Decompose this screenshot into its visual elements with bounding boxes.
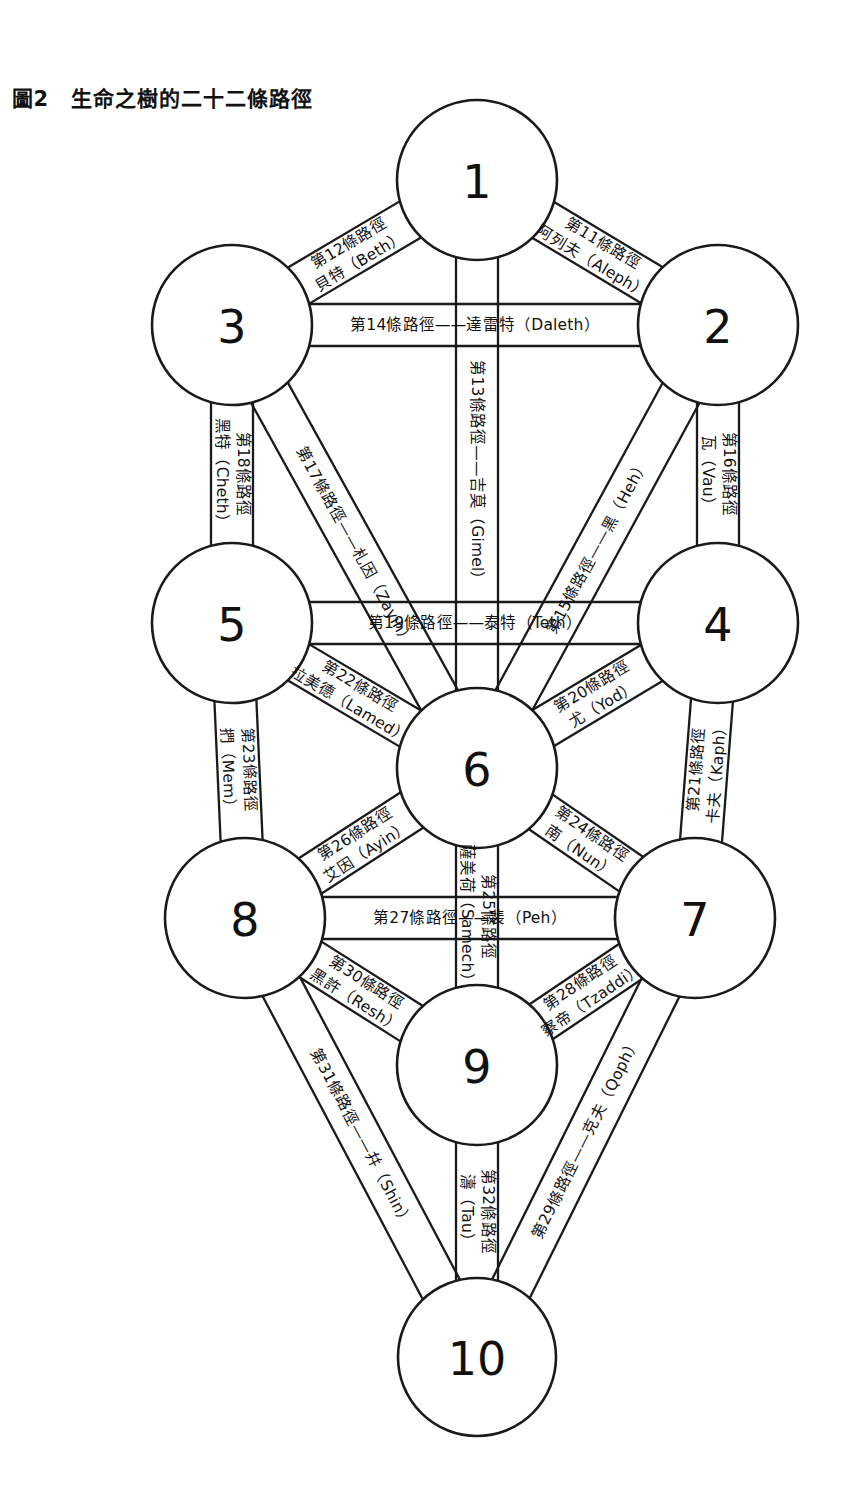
path-label-group-16: 第16條路徑瓦（Vau） bbox=[699, 432, 738, 517]
path-label-18-line1: 第18條路徑 bbox=[234, 432, 252, 517]
path-label-group-11: 第11條路徑阿列夫（Aleph） bbox=[533, 214, 650, 302]
sephirah-5[interactable]: 5 bbox=[152, 543, 312, 703]
sephirah-number-7: 7 bbox=[680, 893, 709, 947]
path-label-group-28: 第28條路徑察帝（Tzaddi） bbox=[538, 952, 645, 1041]
path-label-21-line2: 卡夫（Kaph） bbox=[704, 718, 730, 824]
sephirah-number-4: 4 bbox=[703, 598, 732, 652]
path-label-13-line1: 第13條路徑——吉莫（Gimel） bbox=[468, 360, 486, 587]
path-label-32-line1: 第32條路徑 bbox=[479, 1169, 497, 1254]
path-label-16-line1: 第16條路徑 bbox=[720, 432, 738, 517]
path-label-14-line1: 第14條路徑——達雷特（Daleth） bbox=[350, 316, 600, 334]
path-label-group-21: 第21條路徑卡夫（Kaph） bbox=[684, 718, 730, 824]
path-label-16-line2: 瓦（Vau） bbox=[699, 435, 717, 513]
path-label-19-line1: 第19條路徑——泰特（Teth） bbox=[368, 614, 582, 632]
sephirah-10[interactable]: 10 bbox=[398, 1278, 556, 1436]
path-label-group-15: 第15條路徑——黑（Heh） bbox=[543, 456, 653, 637]
path-label-18-line2: 黑特（Cheth） bbox=[213, 418, 231, 530]
path-band-12 bbox=[285, 200, 424, 306]
sephirah-number-8: 8 bbox=[230, 893, 259, 947]
path-label-group-32: 第32條路徑濤（Tau） bbox=[458, 1169, 497, 1254]
sephirah-2[interactable]: 2 bbox=[638, 245, 798, 405]
path-label-group-18: 第18條路徑黑特（Cheth） bbox=[213, 418, 252, 530]
path-label-27-line1: 第27條路徑——裴（Peh） bbox=[373, 909, 567, 927]
sephirah-number-6: 6 bbox=[462, 743, 491, 797]
sephirah-number-5: 5 bbox=[217, 598, 246, 652]
figure-page: 圖2 生命之樹的二十二條路徑 12345678910 第11條路徑阿列夫（Ale… bbox=[0, 0, 850, 1498]
sephirah-number-1: 1 bbox=[462, 155, 491, 209]
sephirah-number-3: 3 bbox=[217, 300, 246, 354]
sephirah-number-10: 10 bbox=[448, 1332, 507, 1386]
path-label-32-line2: 濤（Tau） bbox=[458, 1174, 476, 1249]
path-label-group-27: 第27條路徑——裴（Peh） bbox=[373, 909, 567, 927]
path-label-group-13: 第13條路徑——吉莫（Gimel） bbox=[468, 360, 486, 587]
sephirah-number-2: 2 bbox=[703, 300, 732, 354]
path-label-group-22: 第22條路徑拉美德（Lamed） bbox=[287, 657, 412, 746]
sephirah-4[interactable]: 4 bbox=[638, 543, 798, 703]
tree-of-life-diagram: 12345678910 第11條路徑阿列夫（Aleph）第12條路徑貝特（Bet… bbox=[0, 0, 850, 1498]
path-label-23-line2: 捫（Mem） bbox=[217, 727, 239, 815]
path-label-group-19: 第19條路徑——泰特（Teth） bbox=[368, 614, 582, 632]
sephirah-9[interactable]: 9 bbox=[397, 985, 557, 1145]
path-label-23-line1: 第23條路徑 bbox=[238, 727, 260, 813]
sephirah-number-9: 9 bbox=[462, 1040, 491, 1094]
path-label-group-14: 第14條路徑——達雷特（Daleth） bbox=[350, 316, 600, 334]
sephirah-3[interactable]: 3 bbox=[152, 245, 312, 405]
path-label-15-line1: 第15條路徑——黑（Heh） bbox=[543, 456, 653, 637]
sephirah-8[interactable]: 8 bbox=[165, 838, 325, 998]
path-label-group-23: 第23條路徑捫（Mem） bbox=[217, 727, 260, 815]
sephirah-6[interactable]: 6 bbox=[397, 688, 557, 848]
